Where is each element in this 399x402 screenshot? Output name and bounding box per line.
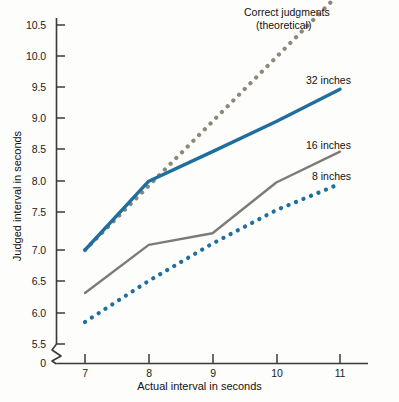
- y-axis-break-symbol: [52, 344, 61, 364]
- series-label-8-inches: 8 inches: [312, 170, 351, 183]
- series-16-inches: [85, 152, 340, 293]
- series-label-16-inches: 16 inches: [306, 139, 351, 152]
- chart-plot-area: [0, 0, 399, 402]
- x-axis-ticks: [85, 354, 340, 364]
- chart-container: 10.5 10.0 9.5 9.0 8.5 8.0 7.5 7.0 6.5 6.…: [0, 0, 399, 402]
- x-tick-label-8: 8: [146, 367, 152, 379]
- series-8-inches: [85, 184, 340, 322]
- x-tick-label-10: 10: [271, 367, 282, 379]
- x-axis-title: Actual interval in seconds: [0, 380, 399, 392]
- x-tick-label-9: 9: [210, 367, 216, 379]
- series-correct-judgments: [85, 0, 340, 250]
- y-tick-label-6-0: 6.0: [12, 307, 46, 319]
- series-label-32-inches: 32 inches: [306, 74, 351, 87]
- y-axis-ticks: [57, 25, 66, 344]
- y-tick-label-5-5: 5.5: [12, 338, 46, 350]
- y-axis-title: Judged interval in seconds: [11, 86, 23, 306]
- series-label-correct-line2: (theoretical): [244, 19, 330, 32]
- x-tick-label-7: 7: [82, 367, 88, 379]
- series-label-correct-judgments: Correct judgments (theoretical): [244, 6, 330, 32]
- y-tick-label-0: 0: [12, 357, 46, 369]
- y-tick-label-10-5: 10.5: [12, 19, 46, 31]
- series-label-correct-line1: Correct judgments: [244, 6, 330, 18]
- data-series-group: [85, 0, 340, 322]
- x-tick-label-11: 11: [335, 367, 346, 379]
- y-tick-label-10-0: 10.0: [12, 50, 46, 62]
